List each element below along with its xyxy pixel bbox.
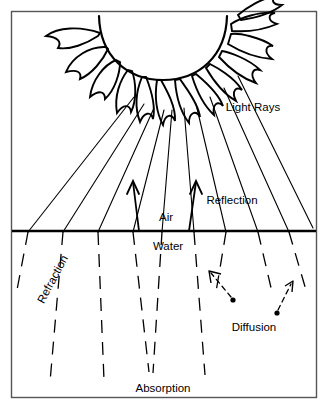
label-air: Air bbox=[159, 211, 173, 223]
label-absorption: Absorption bbox=[136, 382, 191, 394]
label-water: Water bbox=[153, 240, 183, 252]
label-diffusion: Diffusion bbox=[232, 321, 277, 333]
label-light-rays: Light Rays bbox=[226, 101, 281, 113]
diffusion-point-2 bbox=[274, 310, 279, 315]
diffusion-point-1 bbox=[230, 297, 235, 302]
light-water-diagram: Light Rays Reflection Air Water Refracti… bbox=[0, 0, 328, 410]
label-reflection: Reflection bbox=[206, 194, 257, 206]
diagram-root: Light Rays Reflection Air Water Refracti… bbox=[0, 0, 328, 410]
